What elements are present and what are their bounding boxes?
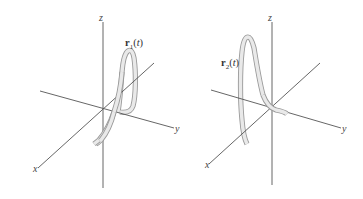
x-axis-right (209, 63, 320, 164)
x-axis-label-right: x (204, 159, 210, 170)
y-axis-label-left: y (174, 123, 180, 134)
y-axis-left (40, 91, 174, 128)
x-axis-label-left: x (32, 163, 38, 174)
curve-label-r2-close: ) (236, 57, 240, 69)
left-figure: z y x r1(t) (32, 12, 180, 188)
figure-canvas: z y x r1(t) z y x r2(t) (0, 0, 363, 199)
z-axis-label-right: z (267, 12, 272, 23)
right-figure: z y x r2(t) (204, 12, 347, 185)
curve-r1-front (94, 72, 122, 144)
y-axis-label-right: y (341, 123, 347, 134)
curve-label-r1-close: ) (140, 37, 144, 49)
curve-label-r2: r2(t) (221, 57, 240, 71)
z-axis-label-left: z (98, 12, 103, 23)
curve-r2-back (241, 37, 264, 144)
x-axis-left (38, 63, 154, 168)
